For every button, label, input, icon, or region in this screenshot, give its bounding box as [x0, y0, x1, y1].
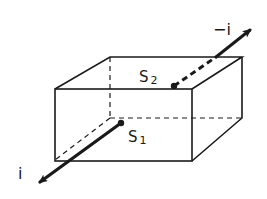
- label-minus-i: −i: [213, 22, 231, 38]
- point-s1-dot: [118, 120, 124, 126]
- label-s1-main: S: [128, 128, 138, 146]
- vector-i-shaft: [40, 123, 121, 182]
- label-s2-main: S: [139, 68, 149, 86]
- vector-i: [40, 120, 124, 182]
- label-s1: S1: [128, 130, 147, 146]
- label-s1-subscript: 1: [140, 134, 147, 147]
- label-s2-subscript: 2: [151, 74, 158, 87]
- diagram-canvas: S2 S1 i −i: [0, 0, 267, 199]
- label-s2: S2: [139, 70, 158, 86]
- vector-minus-i-hidden-segment: [174, 57, 216, 86]
- front-face: [55, 89, 192, 161]
- point-s2-dot: [171, 83, 177, 89]
- label-i: i: [18, 166, 22, 182]
